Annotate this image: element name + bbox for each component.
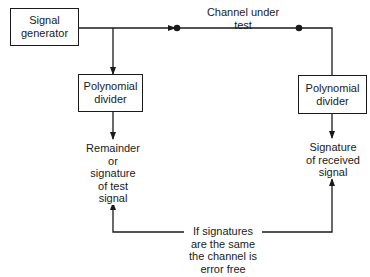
received-line-1: Signature <box>288 141 370 154</box>
channel-to-right-divider-line <box>300 28 332 75</box>
polynomial-divider-left-box: Polynomial divider <box>78 74 143 112</box>
remainder-line-1: Remainder <box>68 142 158 155</box>
divider-left-label-2: divider <box>84 93 138 106</box>
remainder-line-3: signature <box>68 167 158 180</box>
comparison-line-1: If signatures <box>186 225 260 238</box>
remainder-line-2: or <box>68 155 158 168</box>
comparison-to-received-arrow <box>262 179 332 232</box>
channel-input-node <box>174 25 181 32</box>
comparison-label: If signatures are the same the channel i… <box>186 225 260 275</box>
signal-generator-label-1: Signal <box>21 14 68 27</box>
polynomial-divider-right-box: Polynomial divider <box>298 75 367 114</box>
comparison-line-3: the channel is <box>186 250 260 263</box>
comparison-to-remainder-arrow <box>113 203 184 232</box>
channel-label-line-1: Channel under <box>195 6 291 19</box>
received-line-3: signal <box>288 166 370 179</box>
remainder-label: Remainder or signature of test signal <box>68 142 158 205</box>
received-line-2: of received <box>288 154 370 167</box>
divider-left-label-1: Polynomial <box>84 80 138 93</box>
divider-right-label-2: divider <box>306 95 360 108</box>
channel-under-test-label: Channel under test <box>195 6 291 31</box>
signal-generator-label-2: generator <box>21 27 68 40</box>
remainder-line-5: signal <box>68 192 158 205</box>
comparison-line-4: error free <box>186 263 260 276</box>
comparison-line-2: are the same <box>186 238 260 251</box>
channel-label-line-2: test <box>195 19 291 32</box>
remainder-line-4: of test <box>68 180 158 193</box>
received-signature-label: Signature of received signal <box>288 141 370 179</box>
signal-generator-box: Signal generator <box>10 8 79 46</box>
divider-right-label-1: Polynomial <box>306 82 360 95</box>
channel-output-node <box>296 25 303 32</box>
